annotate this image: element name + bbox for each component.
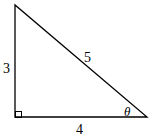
right-triangle (15, 5, 147, 117)
triangle-diagram: 3 5 4 θ (0, 0, 152, 140)
side-label-hypotenuse: 5 (84, 50, 91, 65)
side-label-vertical: 3 (3, 61, 10, 76)
side-label-horizontal: 4 (76, 122, 83, 137)
angle-label-theta: θ (124, 104, 131, 119)
